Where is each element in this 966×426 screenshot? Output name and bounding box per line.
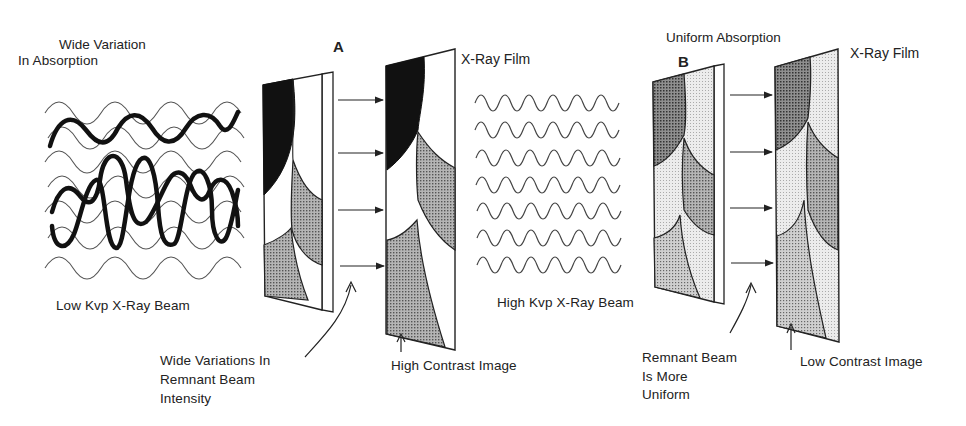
transmission-arrows-b bbox=[730, 95, 773, 263]
high-contrast-image-label: High Contrast Image bbox=[391, 357, 517, 375]
low-kvp-beam-label: Low Kvp X-Ray Beam bbox=[56, 297, 190, 315]
object-panel-a bbox=[263, 72, 333, 312]
remnant-label-b-line2: Is More bbox=[642, 368, 688, 386]
absorption-label-a-line1: Wide Variation bbox=[59, 37, 146, 52]
remnant-pointer-b bbox=[730, 283, 756, 333]
remnant-label-b-line3: Uniform bbox=[642, 386, 690, 404]
panel-b-label: B bbox=[678, 53, 689, 70]
absorption-label-a-line2: In Absorption bbox=[18, 52, 98, 70]
film-label-b: X-Ray Film bbox=[850, 45, 919, 61]
remnant-label-a-line2: Remnant Beam bbox=[160, 371, 255, 389]
absorption-label-b: Uniform Absorption bbox=[666, 30, 781, 45]
panel-a-label: A bbox=[333, 38, 344, 55]
object-panel-b bbox=[653, 64, 724, 304]
high-kvp-beam-waves bbox=[475, 95, 621, 273]
remnant-label-a-line3: Intensity bbox=[160, 390, 211, 408]
transmission-arrows-a bbox=[338, 100, 384, 266]
low-contrast-image-label: Low Contrast Image bbox=[800, 353, 923, 371]
xray-film-a bbox=[386, 49, 455, 350]
film-label-a: X-Ray Film bbox=[461, 51, 530, 67]
remnant-label-a-line1: Wide Variations In bbox=[160, 352, 270, 370]
remnant-label-b-line1: Remnant Beam bbox=[642, 349, 737, 367]
low-kvp-beam-waves bbox=[45, 102, 244, 279]
xray-film-b bbox=[775, 49, 839, 342]
high-kvp-beam-label: High Kvp X-Ray Beam bbox=[497, 294, 634, 312]
